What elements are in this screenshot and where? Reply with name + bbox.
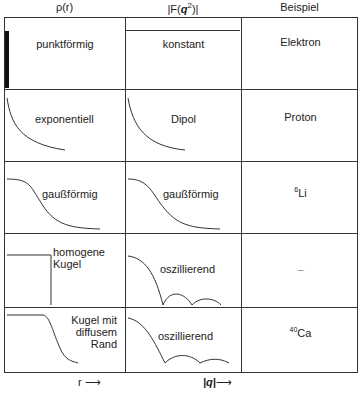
rho-line: homogene — [53, 246, 105, 258]
rho-line: Rand — [55, 338, 117, 350]
axis-label: r — [78, 376, 82, 388]
form-cell: Dipol — [126, 113, 241, 125]
element: Li — [298, 187, 307, 199]
form-cell: oszillierend — [160, 263, 215, 275]
rho-cell: Kugel mitdiffusemRand — [55, 314, 117, 350]
example-cell: Proton — [242, 111, 359, 123]
ff-pre: |F( — [168, 3, 181, 15]
header-example: Beispiel — [241, 1, 358, 13]
x-axis-q: |q|⟶ — [203, 376, 232, 389]
rho-cell: homogeneKugel — [53, 246, 105, 270]
rho-line: diffusem — [55, 326, 117, 338]
arrow-right-icon: ⟶ — [85, 376, 101, 388]
rho-cell: punktförmig — [5, 38, 125, 50]
header-rho: ρ(r) — [4, 1, 125, 13]
header-form-factor: |F(q2)| — [125, 1, 241, 15]
form-cell: gaußförmig — [163, 188, 219, 200]
ff-post: )| — [192, 3, 199, 15]
x-axis-r: r ⟶ — [78, 376, 101, 389]
ff-q: q — [181, 3, 188, 15]
example-cell: Elektron — [242, 36, 359, 48]
rho-cell: exponentiell — [35, 113, 94, 125]
example-cell: – — [242, 263, 359, 275]
form-cell: konstant — [126, 38, 241, 50]
example-cell: 6Li — [242, 186, 359, 199]
element: Ca — [297, 327, 311, 339]
rho-cell: gaußförmig — [42, 188, 98, 200]
rho-line: Kugel mit — [55, 314, 117, 326]
example-cell: 40Ca — [242, 326, 359, 339]
arrow-right-icon: ⟶ — [216, 376, 232, 388]
form-cell: oszillierend — [158, 330, 213, 342]
comparison-table: punktförmig konstant Elektron exponentie… — [4, 17, 358, 373]
rho-line: Kugel — [53, 258, 105, 270]
axis-label: |q| — [203, 376, 216, 388]
